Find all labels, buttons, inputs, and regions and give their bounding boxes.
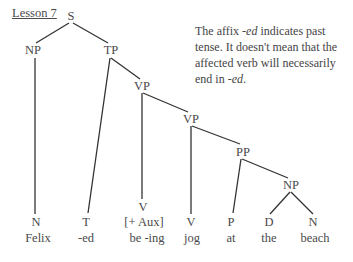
leaf-category-t: T — [82, 215, 90, 229]
leaf-word-ed: -ed — [78, 231, 94, 245]
leaf-category-d: D — [264, 215, 273, 229]
node-vp-1: VP — [134, 79, 150, 93]
leaf-word-the: the — [261, 231, 276, 245]
leaf-word-beach: beach — [300, 231, 329, 245]
tree-branches — [0, 0, 353, 262]
node-s: S — [68, 9, 75, 23]
leaf-category-v-aux: V — [138, 200, 147, 214]
node-vp-2: VP — [183, 112, 199, 126]
leaf-word-be-ing: be -ing — [129, 231, 164, 245]
leaf-word-at: at — [226, 231, 235, 245]
node-pp: PP — [236, 145, 250, 159]
leaf-category-v: V — [186, 215, 195, 229]
leaf-word-jog: jog — [184, 231, 200, 245]
leaf-category-n-2: N — [308, 215, 317, 229]
leaf-category-p: P — [228, 215, 235, 229]
leaf-word-felix: Felix — [25, 231, 51, 245]
node-np-2: NP — [283, 178, 299, 192]
node-np: NP — [25, 43, 41, 57]
node-tp: TP — [104, 43, 119, 57]
leaf-feature-aux: [+ Aux] — [124, 215, 163, 229]
leaf-category-n: N — [31, 215, 40, 229]
